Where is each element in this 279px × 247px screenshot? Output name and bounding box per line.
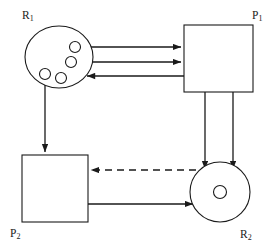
- r1-instance-dot-3: [40, 69, 51, 80]
- node-p1-shape: [184, 25, 253, 92]
- r1-instance-dot-4: [56, 73, 67, 84]
- label-r1: R1: [22, 9, 34, 23]
- r1-instance-dot-1: [70, 42, 81, 53]
- r2-instance-dot-1: [214, 186, 227, 199]
- label-p1: P1: [252, 9, 262, 23]
- node-p2-shape: [22, 155, 88, 222]
- label-p2: P2: [10, 227, 20, 241]
- diagram-canvas: R1 P1 P2 R2: [0, 0, 279, 247]
- label-r2: R2: [240, 228, 252, 242]
- r1-instance-dot-2: [66, 57, 77, 68]
- resource-allocation-diagram: R1 P1 P2 R2: [0, 0, 279, 247]
